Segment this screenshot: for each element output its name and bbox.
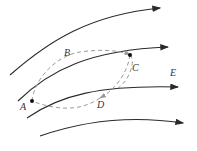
label-field-e: E [169, 67, 176, 78]
point-a [30, 99, 34, 103]
path-cda [100, 55, 130, 98]
electric-field-diagram: A B C D E [0, 0, 197, 151]
label-b: B [64, 47, 70, 58]
label-d: D [96, 99, 105, 110]
label-c: C [132, 62, 139, 73]
field-line-2 [18, 47, 168, 101]
closed-path [32, 50, 132, 108]
label-a: A [19, 101, 27, 112]
path-abc [32, 50, 130, 101]
field-line-4 [40, 120, 183, 136]
field-lines [10, 8, 183, 136]
point-c [128, 53, 132, 57]
